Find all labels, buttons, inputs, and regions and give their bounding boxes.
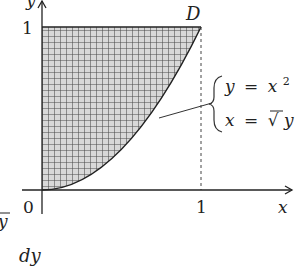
pointer-line [159, 103, 212, 118]
fragment-dy: dy [19, 245, 42, 266]
equation-sqrt: x = √ y [225, 110, 294, 130]
point-d-label: D [185, 3, 201, 24]
y-axis-label: y [25, 0, 36, 10]
curly-brace [209, 76, 222, 132]
shaded-region [42, 27, 201, 190]
y-tick-label: 1 [22, 18, 33, 38]
region-diagram: y 1 0 1 x D y = x 2 x = √ y y dy [0, 0, 298, 280]
origin-label: 0 [23, 197, 34, 217]
x-tick-label: 1 [196, 197, 207, 217]
fragment-y: y [0, 211, 8, 231]
x-axis-label: x [278, 197, 288, 217]
equation-parabola: y = x 2 [224, 75, 290, 96]
